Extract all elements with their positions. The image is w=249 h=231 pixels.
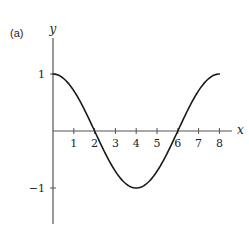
y-ticks: 1−1 — [29, 68, 56, 195]
x-tick-label: 4 — [133, 137, 140, 150]
x-tick-label: 8 — [216, 137, 223, 150]
axes: y x — [49, 22, 244, 224]
x-tick-label: 2 — [91, 137, 98, 150]
panel-label: (a) — [10, 27, 23, 39]
x-axis-label: x — [237, 123, 244, 137]
x-tick-label: 5 — [154, 137, 161, 150]
x-tick-label: 7 — [195, 137, 202, 150]
y-axis-label: y — [49, 22, 57, 36]
y-tick-label: −1 — [29, 182, 45, 195]
y-tick-label: 1 — [38, 68, 45, 81]
x-tick-label: 1 — [70, 137, 77, 150]
x-tick-label: 3 — [112, 137, 119, 150]
x-tick-label: 6 — [174, 137, 181, 150]
chart-figure: (a) y x 12345678 1−1 — [0, 0, 249, 231]
